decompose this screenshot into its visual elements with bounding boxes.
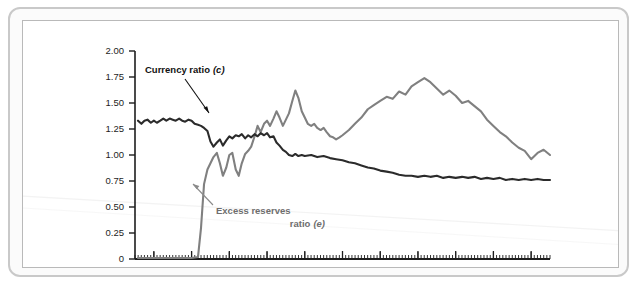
x-axis-tick-labels: 2007200820092010201120122013201420152016… [143, 264, 541, 268]
excess-reserves-arrowhead [193, 184, 199, 189]
y-tick-label-6: 1.50 [106, 97, 125, 108]
figure-inner-panel: 00.250.500.751.001.251.501.752.00 200720… [22, 20, 619, 268]
line-chart-plot: 00.250.500.751.001.251.501.752.00 200720… [23, 21, 619, 268]
y-axis-ticks [129, 51, 135, 259]
excess-reserves-label-line1: Excess reserves [216, 205, 291, 216]
x-tick-label-9: 2016 [483, 264, 504, 268]
figure-outer-frame: 00.250.500.751.001.251.501.752.00 200720… [8, 7, 629, 277]
x-tick-label-5: 2012 [332, 264, 353, 268]
y-axis-tick-labels: 00.250.500.751.001.251.501.752.00 [106, 45, 125, 264]
y-tick-label-0: 0 [119, 253, 124, 264]
series-line-excess-reserves-ratio [138, 78, 550, 258]
series-line-currency-ratio [138, 119, 550, 180]
currency-ratio-label-text: Currency ratio(c) [145, 64, 225, 75]
y-tick-label-8: 2.00 [106, 45, 125, 56]
y-tick-label-4: 1.00 [106, 149, 125, 160]
x-tick-label-3: 2010 [256, 264, 277, 268]
y-tick-label-3: 0.75 [106, 175, 125, 186]
y-tick-label-7: 1.75 [106, 71, 125, 82]
x-tick-label-1: 2008 [181, 264, 202, 268]
y-tick-label-1: 0.25 [106, 227, 125, 238]
x-tick-label-0: 2007 [143, 264, 164, 268]
chart-axes [135, 51, 550, 259]
x-tick-label-4: 2011 [295, 264, 315, 268]
x-tick-label-10: 2017 [521, 264, 542, 268]
y-tick-label-2: 0.50 [106, 201, 125, 212]
x-tick-label-8: 2015 [445, 264, 466, 268]
y-tick-label-5: 1.25 [106, 123, 125, 134]
excess-reserves-label-line2: ratio(e) [290, 218, 325, 229]
x-tick-label-7: 2014 [407, 264, 428, 268]
annotation-currency-ratio: Currency ratio(c) [145, 64, 225, 113]
x-tick-label-2: 2009 [219, 264, 240, 268]
x-tick-label-6: 2013 [370, 264, 391, 268]
annotation-excess-reserves: Excess reserves ratio(e) [193, 184, 325, 229]
